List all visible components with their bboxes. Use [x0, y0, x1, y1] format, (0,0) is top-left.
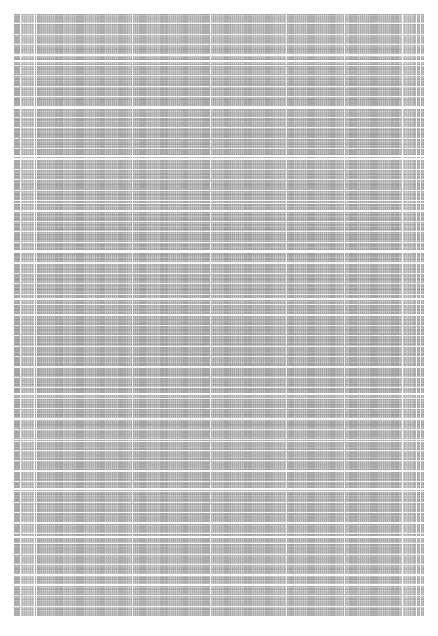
page-caption: [46, 624, 246, 632]
scanned-table-content[interactable]: [14, 14, 424, 616]
paper-tone-overlay: [14, 14, 424, 616]
document-page: [0, 0, 438, 636]
